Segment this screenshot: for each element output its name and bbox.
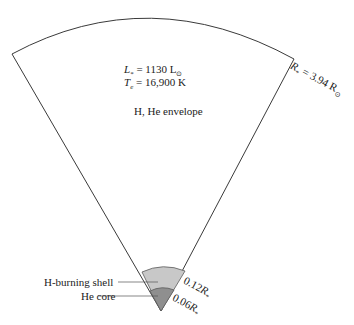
envelope-label: H, He envelope: [134, 106, 203, 117]
he-core: [150, 288, 174, 311]
core-label: He core: [81, 291, 116, 302]
temperature-label: Te = 16,900 K: [124, 77, 186, 91]
shell-label: H-burning shell: [44, 277, 113, 288]
